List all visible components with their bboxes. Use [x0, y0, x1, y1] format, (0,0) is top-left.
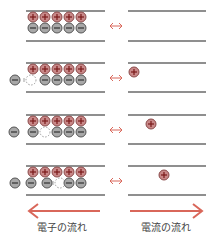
positive-charge-icon: [129, 67, 139, 77]
negative-charge-icon: [26, 178, 36, 188]
negative-charge-icon: [9, 127, 19, 137]
positive-charge-icon: [64, 64, 74, 74]
positive-charge-icon: [64, 12, 74, 22]
negative-charge-icon: [64, 23, 74, 33]
positive-charge-icon: [76, 12, 86, 22]
negative-charge-icon: [28, 127, 38, 137]
negative-charge-icon: [52, 23, 62, 33]
hole-icon: [26, 75, 36, 85]
positive-charge-icon: [28, 12, 38, 22]
negative-charge-icon: [64, 75, 74, 85]
electron-hole-diagram: [0, 0, 214, 235]
positive-charge-icon: [28, 167, 38, 177]
current-flow-label: 電流の流れ: [141, 219, 191, 234]
negative-charge-icon: [76, 127, 86, 137]
positive-charge-icon: [76, 167, 86, 177]
negative-charge-icon: [52, 75, 62, 85]
negative-charge-icon: [10, 75, 20, 85]
positive-charge-icon: [40, 64, 50, 74]
positive-charge-icon: [52, 64, 62, 74]
positive-charge-icon: [40, 12, 50, 22]
negative-charge-icon: [76, 23, 86, 33]
negative-charge-icon: [40, 23, 50, 33]
positive-charge-icon: [76, 64, 86, 74]
negative-charge-icon: [52, 127, 62, 137]
positive-charge-icon: [159, 170, 169, 180]
negative-charge-icon: [40, 75, 50, 85]
negative-charge-icon: [64, 178, 74, 188]
positive-charge-icon: [28, 116, 38, 126]
positive-charge-icon: [52, 12, 62, 22]
positive-charge-icon: [52, 116, 62, 126]
negative-charge-icon: [76, 178, 86, 188]
negative-charge-icon: [10, 178, 20, 188]
negative-charge-icon: [42, 178, 52, 188]
electron-flow-label: 電子の流れ: [37, 219, 87, 234]
positive-charge-icon: [76, 116, 86, 126]
positive-charge-icon: [146, 119, 156, 129]
negative-charge-icon: [64, 127, 74, 137]
negative-charge-icon: [28, 23, 38, 33]
negative-charge-icon: [76, 75, 86, 85]
positive-charge-icon: [28, 64, 38, 74]
positive-charge-icon: [40, 116, 50, 126]
positive-charge-icon: [52, 167, 62, 177]
positive-charge-icon: [64, 116, 74, 126]
hole-icon: [40, 127, 50, 137]
positive-charge-icon: [40, 167, 50, 177]
positive-charge-icon: [64, 167, 74, 177]
